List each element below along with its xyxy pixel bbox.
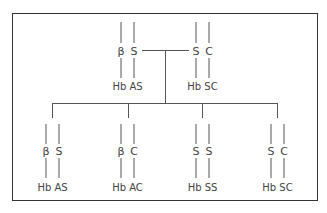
parent1-allele1: β bbox=[117, 45, 124, 58]
child1-genotype: Hb AS bbox=[37, 182, 67, 193]
parent1-genotype: Hb AS bbox=[112, 81, 142, 92]
child3-allele2: S bbox=[206, 145, 213, 158]
child2-genotype: Hb AC bbox=[112, 182, 143, 193]
diagram-frame bbox=[13, 14, 318, 201]
parent1-allele2: S bbox=[131, 45, 138, 58]
child1-allele1: β bbox=[42, 145, 49, 158]
parent2-allele1: S bbox=[193, 45, 200, 58]
child3-genotype: Hb SS bbox=[188, 182, 218, 193]
connector-lines bbox=[46, 22, 284, 178]
child2-allele2: C bbox=[130, 145, 138, 158]
child4-genotype: Hb SC bbox=[262, 182, 292, 193]
child2-allele1: β bbox=[117, 145, 124, 158]
child4-allele1: S bbox=[268, 145, 275, 158]
child1-allele2: S bbox=[56, 145, 63, 158]
parent2-genotype: Hb SC bbox=[187, 81, 217, 92]
child3-allele1: S bbox=[193, 145, 200, 158]
child4-allele2: C bbox=[280, 145, 288, 158]
pedigree-diagram: β S Hb AS S C Hb SC β S Hb AS β C Hb AC … bbox=[0, 0, 327, 213]
parent2-allele2: C bbox=[205, 45, 213, 58]
